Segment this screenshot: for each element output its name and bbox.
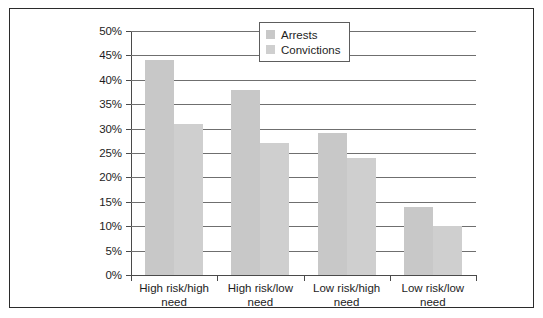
- legend-label-arrests: Arrests: [281, 29, 317, 41]
- legend-label-convictions: Convictions: [281, 44, 340, 56]
- y-tick-label: 40%: [99, 74, 122, 86]
- category-label-line2: need: [217, 295, 303, 309]
- chart-legend: Arrests Convictions: [259, 22, 350, 62]
- bar-convictions-4: [433, 226, 462, 275]
- y-tick-mark: [126, 226, 131, 227]
- y-tick-label: 25%: [99, 147, 122, 159]
- category-label-4: Low risk/lowneed: [390, 281, 476, 309]
- y-tick-label: 45%: [99, 49, 122, 61]
- category-label-line1: High risk/low: [217, 281, 303, 295]
- y-tick-mark: [126, 80, 131, 81]
- chart-frame: 0%5%10%15%20%25%30%35%40%45%50% High ris…: [9, 8, 534, 308]
- legend-item-arrests: Arrests: [266, 27, 340, 42]
- legend-swatch-icon-arrests: [266, 30, 275, 39]
- y-tick-label: 5%: [106, 245, 122, 257]
- y-tick-label: 30%: [99, 123, 122, 135]
- bar-arrests-4: [404, 207, 433, 275]
- y-tick-mark: [126, 55, 131, 56]
- gridline-40%: [131, 80, 476, 81]
- y-tick-mark: [126, 129, 131, 130]
- x-axis-separator: [476, 275, 477, 281]
- category-label-line2: need: [131, 295, 217, 309]
- category-label-line1: Low risk/high: [304, 281, 390, 295]
- y-tick-label: 0%: [106, 269, 122, 281]
- y-tick-mark: [126, 177, 131, 178]
- y-tick-mark: [126, 31, 131, 32]
- category-label-line2: need: [304, 295, 390, 309]
- bar-convictions-2: [260, 143, 289, 275]
- bar-arrests-2: [231, 90, 260, 275]
- bar-convictions-3: [347, 158, 376, 275]
- y-tick-mark: [126, 104, 131, 105]
- bar-arrests-3: [318, 133, 347, 275]
- y-tick-label: 20%: [99, 171, 122, 183]
- y-tick-label: 50%: [99, 25, 122, 37]
- plot-area: 0%5%10%15%20%25%30%35%40%45%50% High ris…: [131, 31, 476, 275]
- legend-swatch-icon-convictions: [266, 45, 275, 54]
- category-label-3: Low risk/highneed: [304, 281, 390, 309]
- bar-convictions-1: [174, 124, 203, 275]
- chart-page: 0%5%10%15%20%25%30%35%40%45%50% High ris…: [0, 0, 543, 318]
- category-label-2: High risk/lowneed: [217, 281, 303, 309]
- y-tick-mark: [126, 202, 131, 203]
- y-tick-label: 10%: [99, 220, 122, 232]
- y-tick-mark: [126, 153, 131, 154]
- y-tick-label: 35%: [99, 98, 122, 110]
- y-tick-mark: [126, 251, 131, 252]
- legend-item-convictions: Convictions: [266, 42, 340, 57]
- grouped-bar-chart: 0%5%10%15%20%25%30%35%40%45%50% High ris…: [10, 9, 535, 309]
- category-label-line1: Low risk/low: [390, 281, 476, 295]
- category-label-line2: need: [390, 295, 476, 309]
- category-label-line1: High risk/high: [131, 281, 217, 295]
- y-tick-label: 15%: [99, 196, 122, 208]
- category-label-1: High risk/highneed: [131, 281, 217, 309]
- gridline-35%: [131, 104, 476, 105]
- bar-arrests-1: [145, 60, 174, 275]
